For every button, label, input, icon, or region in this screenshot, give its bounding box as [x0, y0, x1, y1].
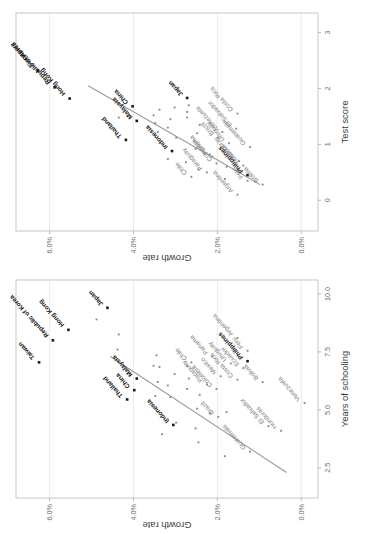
- point-label: Indonesia: [143, 124, 168, 151]
- data-point: [280, 430, 282, 432]
- figure: 2.55.07.510.00.0%2.0%4.0%6.0%Years of sc…: [0, 0, 371, 534]
- scatter-plot-test-score: 01230.0%2.0%4.0%6.0%Test scoreGrowth rat…: [0, 0, 371, 267]
- data-point: [175, 137, 177, 139]
- y-tick-label: 0.0%: [297, 503, 306, 520]
- data-point: [304, 402, 306, 404]
- data-point: [154, 395, 156, 397]
- point-label: Hong Kong: [37, 298, 66, 329]
- data-point: [209, 153, 211, 155]
- point-label: Indonesia: [145, 398, 170, 425]
- data-point: [156, 354, 158, 356]
- point-label: Japan: [166, 79, 184, 98]
- y-tick-label: 2.0%: [213, 503, 222, 520]
- data-point: [117, 349, 119, 351]
- data-point: [188, 378, 190, 380]
- data-point: [188, 104, 190, 106]
- data-point: [169, 396, 171, 398]
- data-point: [106, 307, 109, 310]
- point-label: Guatemala: [220, 423, 246, 451]
- y-axis-title: Growth rate: [143, 253, 192, 264]
- y-axis-title: Growth rate: [143, 520, 192, 531]
- data-point: [190, 176, 192, 178]
- data-point: [196, 408, 198, 410]
- x-tick-label: 5.0: [323, 405, 332, 415]
- data-point: [226, 411, 228, 413]
- data-point: [224, 455, 226, 457]
- y-tick-label: 6.0%: [45, 503, 54, 520]
- data-point: [161, 143, 163, 145]
- y-tick-label: 0.0%: [297, 236, 306, 253]
- data-point: [125, 139, 128, 142]
- data-point: [157, 381, 159, 383]
- y-tick-label: 6.0%: [45, 236, 54, 253]
- data-point: [185, 161, 187, 163]
- data-point: [136, 120, 139, 123]
- data-point: [174, 373, 176, 375]
- point-label: Malaysia: [110, 353, 134, 378]
- data-point: [221, 131, 223, 133]
- data-point: [159, 366, 161, 368]
- scatter-plot-years-of-schooling: 2.55.07.510.00.0%2.0%4.0%6.0%Years of sc…: [0, 267, 371, 534]
- data-point: [249, 146, 251, 148]
- rotated-figure-wrapper: 2.55.07.510.00.0%2.0%4.0%6.0%Years of sc…: [0, 0, 371, 534]
- data-point: [238, 160, 240, 162]
- data-point: [262, 184, 264, 186]
- data-point: [126, 398, 129, 401]
- data-point: [186, 365, 188, 367]
- data-point: [199, 394, 201, 396]
- y-tick-label: 4.0%: [129, 236, 138, 253]
- data-point: [159, 109, 161, 111]
- data-point: [237, 113, 239, 115]
- data-point: [136, 377, 139, 380]
- data-point: [167, 418, 169, 420]
- data-point: [153, 365, 155, 367]
- data-point: [167, 127, 169, 129]
- data-point: [186, 97, 189, 100]
- data-point: [157, 131, 159, 133]
- data-point: [216, 162, 218, 164]
- data-point: [186, 117, 188, 119]
- data-point: [224, 178, 226, 180]
- data-point: [186, 111, 188, 113]
- data-point: [118, 117, 120, 119]
- point-label: Japan: [87, 289, 105, 308]
- data-point: [247, 180, 249, 182]
- x-tick-label: 1: [323, 142, 332, 146]
- data-point: [195, 148, 197, 150]
- data-point: [171, 150, 174, 153]
- data-point: [217, 416, 219, 418]
- data-point: [186, 388, 188, 390]
- chart-panel-years-of-schooling: 2.55.07.510.00.0%2.0%4.0%6.0%Years of sc…: [0, 267, 371, 534]
- data-point: [67, 329, 70, 332]
- data-point: [249, 451, 251, 453]
- chart-panel-test-score: 01230.0%2.0%4.0%6.0%Test scoreGrowth rat…: [0, 0, 371, 267]
- data-point: [235, 128, 237, 130]
- data-point: [169, 118, 171, 120]
- data-point: [237, 194, 239, 196]
- point-label: Brazil: [199, 400, 215, 417]
- x-tick-label: 2.5: [323, 463, 332, 473]
- data-point: [262, 381, 264, 383]
- point-label: Bolivia: [241, 363, 259, 382]
- data-point: [52, 339, 55, 342]
- x-axis-title: Years of schooling: [339, 351, 350, 427]
- data-point: [117, 93, 119, 95]
- data-point: [209, 412, 211, 414]
- x-tick-label: 0: [323, 198, 332, 202]
- data-point: [220, 375, 222, 377]
- x-tick-label: 10.0: [323, 287, 332, 301]
- x-axis-title: Test score: [339, 101, 350, 144]
- x-tick-label: 7.5: [323, 347, 332, 357]
- point-label: Venezuela: [276, 376, 301, 403]
- data-point: [247, 350, 249, 352]
- y-tick-label: 4.0%: [129, 503, 138, 520]
- data-point: [226, 166, 228, 168]
- point-label: Republic of Korea: [8, 293, 51, 339]
- data-point: [96, 318, 98, 320]
- data-point: [228, 142, 230, 144]
- data-point: [38, 361, 41, 364]
- point-label: Taiwan: [16, 341, 35, 362]
- point-label: Chile: [173, 161, 188, 177]
- point-label: Panama: [188, 334, 209, 357]
- data-point: [175, 422, 177, 424]
